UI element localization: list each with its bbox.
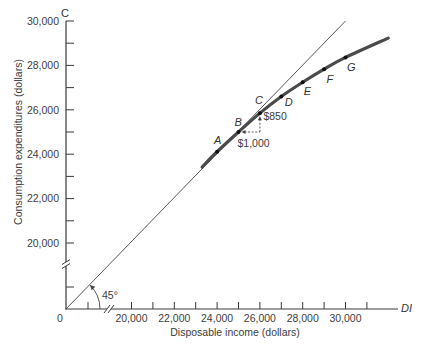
consumption-function-chart: 20,00022,00024,00026,00028,00030,00020,0… [0,0,421,347]
data-point-g [344,55,348,59]
point-label-a: A [213,134,221,146]
chart-figure: 20,00022,00024,00026,00028,00030,00020,0… [0,0,421,347]
y-axis-title: Consumption expenditures (dollars) [12,59,24,225]
arrow-up-icon [258,116,262,120]
x-axis-tick-label: 26,000 [244,312,276,324]
x-axis-tick-label: 22,000 [158,312,190,324]
mpc-annotation-group: $850$1,000 [238,110,287,149]
consumption-curve-group [202,38,388,167]
point-label-f: F [327,73,335,85]
y-axis-tick-label: 26,000 [27,104,59,116]
x-axis-tick-label: 28,000 [287,312,319,324]
point-label-e: E [304,85,312,97]
arrow-icon [90,285,95,290]
data-point-d [279,94,283,98]
origin-label: 0 [57,312,63,324]
angle-label: 45° [102,289,118,301]
x-axis-tick-label: 20,000 [115,312,147,324]
x-axis-tick-label: 30,000 [329,312,361,324]
point-label-b: B [235,116,242,128]
y-axis-tick-label: 24,000 [27,148,59,160]
y-axis-tick-label: 20,000 [27,237,59,249]
mpc-rise-label: $850 [263,110,287,122]
y-axis-tick-label: 30,000 [27,15,59,27]
x-axis-title: Disposable income (dollars) [170,326,300,338]
consumption-function-curve [202,38,388,167]
data-point-e [301,80,305,84]
y-axis-tick-label: 22,000 [27,192,59,204]
data-point-f [322,67,326,71]
axis-ticks: 20,00022,00024,00026,00028,00030,00020,0… [27,15,367,324]
point-label-g: G [347,61,356,73]
x-axis-tick-label: 24,000 [201,312,233,324]
data-point-c [258,111,262,115]
data-point-b [237,130,241,134]
data-point-a [215,150,219,154]
y-axis-tick-label: 28,000 [27,59,59,71]
point-label-c: C [255,94,263,106]
x-axis-symbol: DI [401,302,412,314]
y-axis-symbol: C [61,7,69,19]
point-label-d: D [285,96,293,108]
data-points-group: ABCDEFG [213,55,356,153]
mpc-run-label: $1,000 [238,137,270,149]
